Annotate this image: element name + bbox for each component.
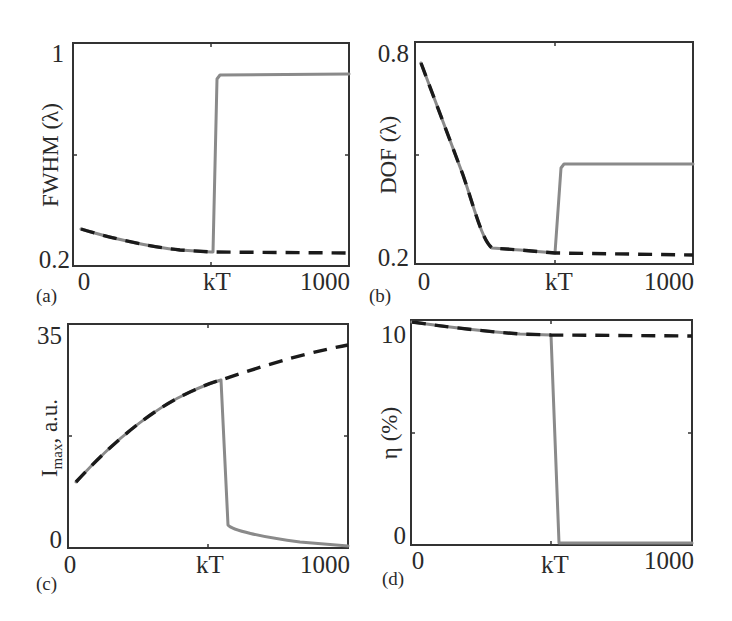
panel-a-axes-frame [73,43,349,266]
panel-d-y-tick-label-max: 10 [381,321,406,348]
panel-d-y-tick-label-min: 0 [394,522,407,549]
panel-c-label: (c) [36,573,57,595]
panel-c-y-tick-label-min: 0 [50,526,63,553]
panel-c-x-tick-label-0: 0 [64,551,77,578]
panel-b-label: (b) [369,285,391,307]
panel-a-y-axis-label: FWHM (λ) [38,103,63,207]
panel-b-y-tick-label-max: 0.8 [378,40,409,67]
panel-d-x-tick-label-0: 0 [412,547,425,574]
panel-d-x-tick-label-1000: 1000 [644,547,694,574]
panel-b-y-tick-label-min: 0.2 [378,244,409,271]
panel-d-label: (d) [382,568,404,590]
panel-a-solid-series [81,74,349,252]
panel-c-axes-frame [68,324,348,548]
panel-c-y-tick-label-max: 35 [37,322,62,349]
panel-b-x-tick-label-1000: 1000 [644,268,694,295]
panel-d-y-axis-label: η (%) [377,407,402,459]
panel-c-solid-series [76,380,348,546]
panel-a: 1 0.2 0 kT 1000 FWHM (λ) (a) [36,40,350,307]
panel-a-y-tick-label-min: 0.2 [39,246,70,273]
panel-c-y-axis-label-main: I [37,469,62,477]
panel-b: 0.8 0.2 0 kT 1000 DOF (λ) (b) [369,40,694,307]
panel-d: 10 0 0 kT 1000 η (%) (d) [377,320,694,590]
panel-c-y-axis-label: Imax, a.u. [37,399,65,477]
panel-b-y-axis-label: DOF (λ) [376,116,401,194]
panel-c: 35 0 0 kT 1000 Imax, a.u. (c) [36,322,350,595]
panel-a-x-tick-label-0: 0 [78,268,91,295]
panel-c-y-axis-label-rest: , a.u. [37,399,62,444]
panel-b-solid-series [421,63,693,253]
panel-c-dashed-series [76,345,348,482]
panel-a-y-tick-label-max: 1 [52,40,65,67]
panel-c-x-tick-label-1000: 1000 [300,551,350,578]
panel-c-y-axis-label-sub: max [49,443,65,469]
panel-b-x-tick-label-0: 0 [418,268,431,295]
panel-d-x-tick-label-kt: kT [541,551,569,578]
panel-b-x-tick-label-kt: kT [545,268,573,295]
panel-a-label: (a) [36,285,57,307]
panel-c-x-tick-label-kt: kT [196,551,224,578]
panel-a-x-tick-label-1000: 1000 [300,268,350,295]
panel-d-solid-series [412,322,692,543]
figure-grid: 1 0.2 0 kT 1000 FWHM (λ) (a) 0.8 0.2 0 k… [0,0,732,621]
panel-b-axes-frame [415,42,693,264]
panel-a-x-tick-label-kt: kT [203,268,231,295]
